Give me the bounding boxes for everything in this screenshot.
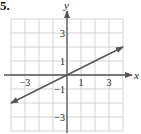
- x-tick-label: 1: [79, 77, 84, 88]
- problem-number: 5.: [0, 0, 10, 13]
- y-tick-label: −3: [54, 112, 65, 123]
- x-tick-label: 3: [107, 77, 112, 88]
- y-axis-label: y: [63, 0, 69, 11]
- axes: [4, 11, 132, 133]
- x-axis-label: x: [133, 69, 139, 81]
- y-tick-label: 1: [60, 56, 65, 67]
- y-tick-label: 3: [60, 28, 65, 39]
- graph-figure: 5. −31331−1−3 x y: [0, 0, 141, 134]
- x-tick-label: −3: [20, 77, 31, 88]
- y-tick-label: −1: [54, 84, 65, 95]
- coordinate-plane: −31331−1−3 x y: [0, 0, 141, 134]
